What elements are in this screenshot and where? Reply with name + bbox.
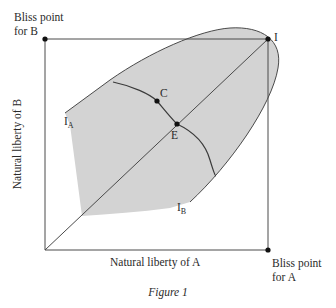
point-i-dot [265, 36, 270, 41]
point-c-label: C [160, 86, 168, 100]
point-c-dot [154, 98, 159, 103]
point-e-label: E [171, 128, 178, 142]
bliss-b-line1: Bliss point [14, 10, 64, 24]
curve-ib-sub: B [181, 207, 186, 216]
point-e-dot [174, 121, 179, 126]
point-i-label: I [274, 30, 278, 44]
bliss-a-line1: Bliss point [272, 256, 322, 270]
y-axis-label: Natural liberty of B [11, 99, 23, 189]
bliss-point-b-label: Bliss point for B [14, 10, 64, 38]
curve-ib-label: IB [177, 200, 186, 216]
figure-caption: Figure 1 [0, 286, 336, 298]
curve-ia-sub: A [68, 121, 74, 130]
x-axis-label: Natural liberty of A [110, 255, 200, 269]
bliss-point-a-label: Bliss point for A [272, 256, 322, 284]
bliss-point-a-dot [265, 247, 270, 252]
bliss-a-line2: for A [272, 270, 322, 284]
bliss-b-line2: for B [14, 24, 64, 38]
curve-ia-label: IA [64, 114, 74, 130]
shaded-region [65, 28, 279, 216]
